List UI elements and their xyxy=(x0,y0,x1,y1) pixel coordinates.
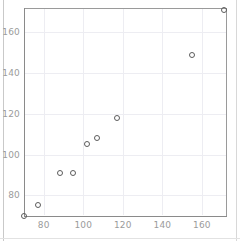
data-point xyxy=(114,115,120,121)
axis-spine-bottom xyxy=(24,216,227,217)
y-tick-label-140: 140 xyxy=(0,68,20,78)
data-point xyxy=(84,141,90,147)
plot-area xyxy=(24,8,227,217)
image-border-bottom xyxy=(0,238,240,239)
axis-spine-right xyxy=(226,8,227,217)
x-tick-label-80: 80 xyxy=(38,220,50,230)
y-tick-label-160: 160 xyxy=(0,27,20,37)
data-point xyxy=(221,7,227,13)
gridline-y-100 xyxy=(24,155,226,156)
data-point xyxy=(94,135,100,141)
gridline-y-120 xyxy=(24,114,226,115)
scatter-chart: 80100120140160 80100120140160 xyxy=(0,0,240,241)
gridline-x-160 xyxy=(202,8,203,215)
gridline-x-140 xyxy=(162,8,163,215)
x-tick-label-120: 120 xyxy=(114,220,132,230)
data-point xyxy=(35,202,41,208)
image-border-right xyxy=(236,0,237,241)
y-tick-label-120: 120 xyxy=(0,109,20,119)
data-point xyxy=(189,52,195,58)
data-point xyxy=(57,170,63,176)
gridline-x-100 xyxy=(83,8,84,215)
axis-spine-left xyxy=(24,8,25,217)
gridline-y-160 xyxy=(24,32,226,33)
x-tick-label-160: 160 xyxy=(193,220,211,230)
y-tick-label-80: 80 xyxy=(0,190,20,200)
gridline-y-140 xyxy=(24,73,226,74)
x-tick-label-100: 100 xyxy=(74,220,92,230)
gridline-x-80 xyxy=(44,8,45,215)
gridline-y-80 xyxy=(24,195,226,196)
x-tick-label-140: 140 xyxy=(153,220,171,230)
gridline-x-120 xyxy=(123,8,124,215)
y-tick-label-100: 100 xyxy=(0,150,20,160)
axis-spine-top xyxy=(24,8,227,9)
data-point xyxy=(21,213,27,219)
data-point xyxy=(70,170,76,176)
